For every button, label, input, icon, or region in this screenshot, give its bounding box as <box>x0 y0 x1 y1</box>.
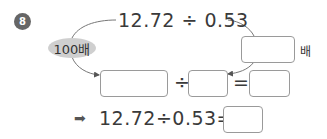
right-multiplier-unit: 배 <box>300 42 311 59</box>
answer-input-box[interactable] <box>223 106 263 133</box>
right-multiplier-input-box[interactable] <box>241 36 295 63</box>
equals-symbol: = <box>233 71 249 93</box>
divisor-input-box[interactable] <box>188 70 228 97</box>
top-expression: 12.72 ÷ 0.53 <box>118 9 249 31</box>
problem-number-badge: 8 <box>14 13 31 30</box>
left-multiplier-oval: 100배 <box>48 38 96 58</box>
quotient-input-box[interactable] <box>249 70 290 97</box>
right-arrow-icon: ➡ <box>74 110 86 126</box>
conclusion-expression: 12.72÷0.53= <box>99 107 233 129</box>
dividend-input-box[interactable] <box>100 70 168 97</box>
